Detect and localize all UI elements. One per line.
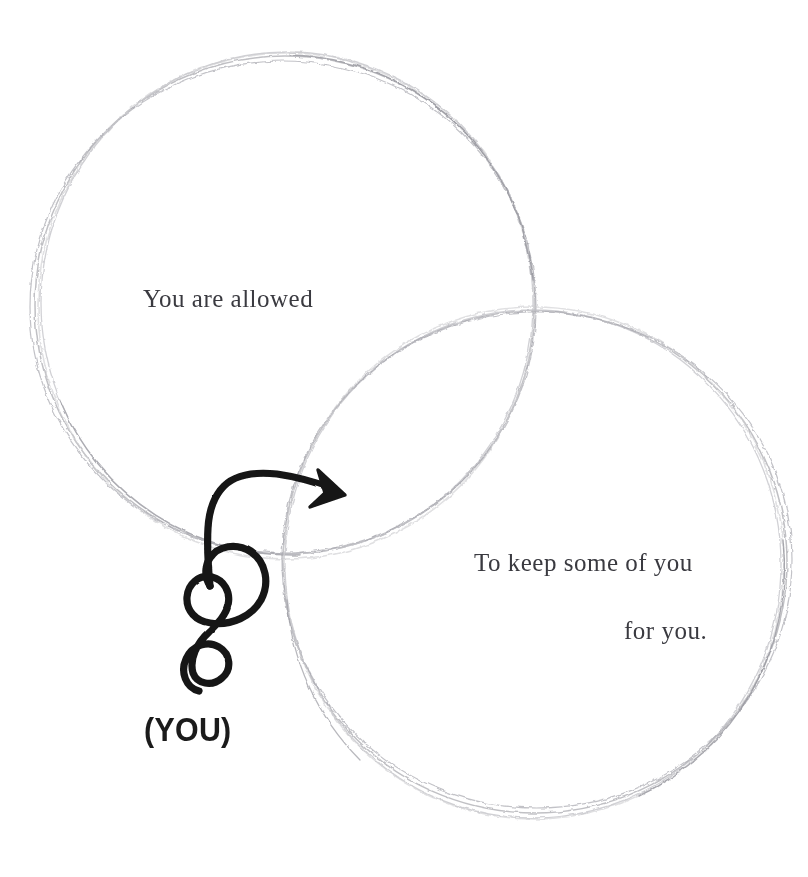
left-circle-label: You are allowed xyxy=(143,286,313,311)
you-marker-label: (YOU) xyxy=(144,713,232,746)
curly-arrow xyxy=(184,470,345,691)
venn-diagram-svg xyxy=(0,0,808,877)
right-circle-label-line-1: To keep some of you xyxy=(474,550,693,575)
diagram-canvas: You are allowed To keep some of you for … xyxy=(0,0,808,877)
right-circle-label-line-2: for you. xyxy=(624,618,707,643)
